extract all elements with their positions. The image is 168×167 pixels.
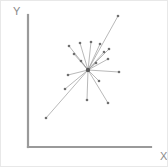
scatter-point xyxy=(118,71,121,74)
scatter-point xyxy=(86,99,89,102)
data-nodes-group xyxy=(45,15,121,120)
scatter-point xyxy=(80,60,83,63)
scatter-point xyxy=(90,41,93,44)
y-axis-label: Y xyxy=(13,5,21,17)
scatter-point xyxy=(99,43,102,46)
ray-line xyxy=(88,44,100,70)
ray-line xyxy=(88,70,108,103)
scatter-point xyxy=(98,80,101,83)
scatter-point xyxy=(67,74,70,77)
x-axis-label: X xyxy=(160,150,168,162)
scatter-point xyxy=(103,51,106,54)
scatter-point xyxy=(107,58,110,61)
scatter-point xyxy=(79,42,82,45)
hub-point xyxy=(86,68,90,72)
scatter-point xyxy=(73,53,76,56)
plot-canvas: Y X xyxy=(1,1,168,167)
ray-line xyxy=(88,52,104,70)
ray-line xyxy=(88,70,119,72)
axes-group xyxy=(28,15,151,147)
scatter-point xyxy=(107,102,110,105)
scatter-point xyxy=(68,45,71,48)
scatter-point xyxy=(117,15,120,18)
scatter-point xyxy=(45,117,48,120)
scatter-point xyxy=(108,48,111,51)
ray-line xyxy=(87,70,88,100)
scatter-point xyxy=(95,62,98,65)
scatter-point xyxy=(64,88,67,91)
ray-line xyxy=(46,70,88,118)
star-plot-figure: Y X xyxy=(0,0,168,167)
